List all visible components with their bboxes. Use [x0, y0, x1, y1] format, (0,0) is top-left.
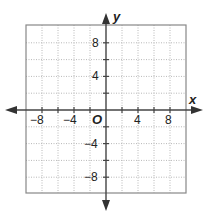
- y-axis-label: y: [112, 9, 121, 24]
- y-tick-label: 8: [92, 36, 99, 50]
- x-axis-right-arrow-icon: [191, 106, 203, 114]
- y-tick-label: 4: [92, 69, 99, 83]
- y-tick-label: −8: [84, 170, 98, 184]
- y-axis-up-arrow-icon: [102, 13, 110, 24]
- y-tick-label: −4: [84, 137, 98, 151]
- x-tick-label: 8: [165, 113, 172, 127]
- coordinate-plane: y x O −8 −4 4 8 8 4 −4 −8: [0, 0, 208, 215]
- x-tick-label: −4: [63, 113, 77, 127]
- y-axis-down-arrow-icon: [102, 200, 110, 211]
- x-tick-label: 4: [134, 113, 141, 127]
- origin-label: O: [92, 112, 102, 127]
- x-axis-left-arrow-icon: [5, 106, 17, 114]
- x-axis-label: x: [188, 92, 197, 107]
- x-tick-label: −8: [30, 113, 44, 127]
